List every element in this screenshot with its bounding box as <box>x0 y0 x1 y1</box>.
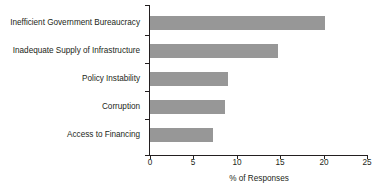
x-axis-title: % of Responses <box>150 174 368 184</box>
x-tick-label-4: 20 <box>319 158 328 168</box>
plot-area <box>150 5 368 155</box>
category-label-0: Inefficient Government Bureaucracy <box>10 18 140 27</box>
bar-1 <box>150 44 278 58</box>
y-axis-tick <box>145 155 149 156</box>
x-axis-tick-labels: 0 5 10 15 20 25 <box>150 158 368 170</box>
category-label-4: Access to Financing <box>67 130 140 139</box>
category-axis-labels: Inefficient Government Bureaucracy Inade… <box>0 5 144 155</box>
bar-2 <box>150 72 228 86</box>
y-axis-tick <box>145 63 149 64</box>
x-tick-label-5: 25 <box>362 158 371 168</box>
x-tick-label-3: 15 <box>275 158 284 168</box>
x-tick-label-2: 10 <box>232 158 241 168</box>
bar-chart: Inefficient Government Bureaucracy Inade… <box>0 0 376 191</box>
x-tick-label-1: 5 <box>191 158 196 168</box>
y-axis-tick <box>145 91 149 92</box>
x-tick-label-0: 0 <box>148 158 153 168</box>
category-label-3: Corruption <box>102 102 140 111</box>
y-axis-tick <box>145 35 149 36</box>
bar-3 <box>150 100 225 114</box>
bar-0 <box>150 16 325 30</box>
category-label-2: Policy Instability <box>82 74 140 83</box>
bar-4 <box>150 128 213 142</box>
y-axis-tick <box>145 119 149 120</box>
y-axis-tick <box>145 5 149 6</box>
category-label-1: Inadequate Supply of Infrastructure <box>13 46 140 55</box>
x-axis-line <box>149 155 368 156</box>
